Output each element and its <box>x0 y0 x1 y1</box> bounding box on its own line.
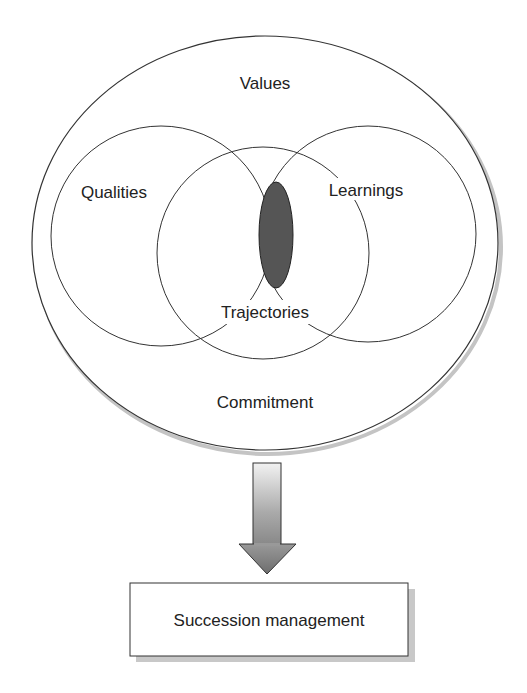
intersection-ellipse <box>259 182 293 288</box>
down-arrow-icon <box>239 463 296 574</box>
commitment-label: Commitment <box>217 393 314 412</box>
trajectories-label: Trajectories <box>221 303 309 322</box>
venn-diagram: Values Qualities Learnings Trajectories … <box>0 0 527 693</box>
values-label: Values <box>240 74 291 93</box>
learnings-label: Learnings <box>329 181 404 200</box>
qualities-label: Qualities <box>81 183 147 202</box>
succession-management-label: Succession management <box>174 611 365 630</box>
